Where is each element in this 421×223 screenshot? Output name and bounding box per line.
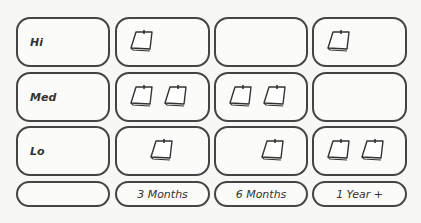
row-label-hi: Hi (16, 17, 110, 67)
grid-cell (312, 126, 407, 176)
grid-cell (115, 72, 210, 122)
grid-cell (312, 17, 407, 67)
grid-cell (312, 72, 407, 122)
sticky-note-icon (161, 83, 189, 109)
grid-cell (214, 72, 308, 122)
row-label-text: Med (30, 91, 56, 104)
grid-cell (115, 17, 210, 67)
row-label-lo: Lo (16, 126, 110, 176)
column-label: 1 Year + (312, 181, 407, 207)
column-label: 6 Months (214, 181, 308, 207)
column-label-empty (16, 181, 110, 207)
notes-group (324, 28, 352, 54)
column-label: 3 Months (115, 181, 210, 207)
notes-group (147, 137, 175, 163)
sticky-note-icon (258, 137, 286, 163)
notes-group (226, 83, 288, 109)
row-label-text: Lo (30, 145, 45, 158)
sticky-note-icon (127, 83, 155, 109)
notes-group (127, 83, 189, 109)
sticky-note-icon (324, 137, 352, 163)
sticky-note-icon (358, 137, 386, 163)
notes-group (127, 28, 155, 54)
notes-group (258, 137, 286, 163)
grid-cell (214, 17, 308, 67)
row-label-text: Hi (30, 36, 43, 49)
sticky-note-icon (127, 28, 155, 54)
grid-cell (115, 126, 210, 176)
notes-group (324, 137, 386, 163)
row-label-med: Med (16, 72, 110, 122)
sticky-note-icon (324, 28, 352, 54)
sticky-note-icon (226, 83, 254, 109)
grid-cell (214, 126, 308, 176)
sticky-note-icon (260, 83, 288, 109)
sticky-note-icon (147, 137, 175, 163)
